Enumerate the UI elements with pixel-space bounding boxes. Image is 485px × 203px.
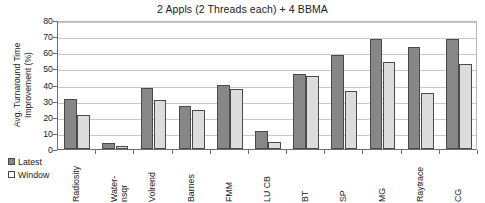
legend-item-latest: Latest <box>8 156 49 167</box>
bar-latest <box>408 47 421 149</box>
x-axis-category-label-line: FMM <box>225 182 235 202</box>
legend-item-window: Window <box>8 169 49 180</box>
plot-area <box>57 21 477 150</box>
x-axis-category-label-line: Radiosity <box>72 166 82 202</box>
x-axis-separator <box>286 150 287 154</box>
x-axis-category-label-line: SP <box>339 190 349 202</box>
y-axis-tick-label: 40 <box>29 81 53 91</box>
y-axis-tick-label: 0 <box>29 145 53 155</box>
x-axis-separator <box>439 150 440 154</box>
x-axis-category-label-line: Raytrace <box>416 167 426 202</box>
y-axis-tick-label: 60 <box>29 48 53 58</box>
legend-swatch-latest <box>8 158 15 165</box>
bar-window <box>383 62 396 149</box>
bar-latest <box>293 74 306 149</box>
x-axis-separator <box>362 150 363 154</box>
bar-latest <box>217 85 230 149</box>
bar-latest <box>255 131 268 149</box>
bar-window <box>459 64 472 149</box>
bar-latest <box>370 39 383 149</box>
chart-title: 2 Appls (2 Threads each) + 4 BBMA <box>0 3 485 15</box>
bar-window <box>230 89 243 149</box>
y-axis-tick-label: 70 <box>29 32 53 42</box>
x-axis-separator <box>95 150 96 154</box>
bar-latest <box>141 88 154 149</box>
y-axis-tick-label: 50 <box>29 64 53 74</box>
y-axis-tick-label: 80 <box>29 16 53 26</box>
y-axis-tick-label: 30 <box>29 97 53 107</box>
legend: Latest Window <box>8 156 49 182</box>
legend-swatch-window <box>8 171 15 178</box>
bar-window <box>192 110 205 149</box>
x-axis-separator <box>477 150 478 154</box>
x-axis-separator <box>133 150 134 154</box>
x-axis-category-label-line: BT <box>301 191 311 202</box>
bar-window <box>306 76 319 149</box>
bar-latest <box>64 99 77 149</box>
bar-window <box>77 115 90 149</box>
x-axis-category-label-line: Barnes <box>187 174 197 202</box>
bar-latest <box>446 39 459 149</box>
x-axis-category-label-line: LU CB <box>263 176 273 202</box>
x-axis-separator <box>172 150 173 154</box>
legend-label-window: Window <box>18 170 49 180</box>
bar-window <box>116 146 129 149</box>
x-axis-category-label-line: Volrend <box>148 172 158 202</box>
bar-window <box>345 91 358 149</box>
bar-window <box>154 100 167 149</box>
gridline <box>58 22 476 23</box>
y-axis-title: Avg. Turnaround Time Improvement (%) <box>2 18 24 152</box>
x-axis-separator <box>324 150 325 154</box>
bar-window <box>421 93 434 149</box>
bar-window <box>268 142 281 149</box>
x-axis-category-label-line: CG <box>454 189 464 202</box>
x-axis-separator <box>401 150 402 154</box>
bar-chart: 2 Appls (2 Threads each) + 4 BBMA Avg. T… <box>0 0 485 203</box>
x-axis-separator <box>210 150 211 154</box>
bar-latest <box>331 55 344 149</box>
gridline <box>58 38 476 39</box>
x-axis-separator <box>248 150 249 154</box>
x-axis-category-label-line: MG <box>378 188 388 202</box>
y-axis-title-line-1: Avg. Turnaround Time <box>12 18 23 152</box>
y-axis-tick-mark <box>53 150 57 151</box>
bar-latest <box>179 106 192 149</box>
y-axis-tick-label: 20 <box>29 113 53 123</box>
legend-label-latest: Latest <box>18 157 42 167</box>
y-axis-tick-label: 10 <box>29 129 53 139</box>
bar-latest <box>102 143 115 149</box>
x-axis-category-label-line: nsqr <box>120 185 130 202</box>
